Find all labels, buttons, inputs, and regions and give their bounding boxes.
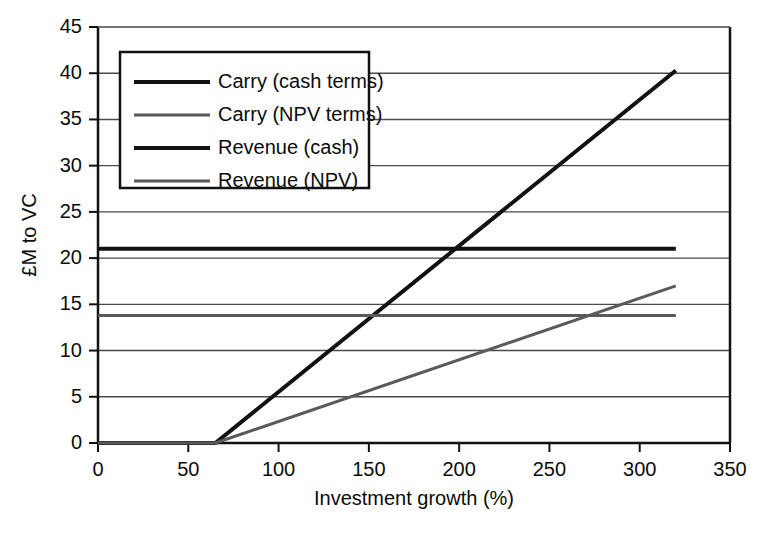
x-tick-label: 350: [690, 459, 767, 479]
legend-label-2: Revenue (cash): [218, 136, 359, 158]
legend-label-3: Revenue (NPV): [218, 169, 358, 191]
x-axis-title: Investment growth (%): [314, 487, 514, 509]
y-axis-ticks: [89, 27, 98, 443]
x-tick-label: 250: [509, 459, 589, 479]
x-tick-label: 150: [329, 459, 409, 479]
chart-legend: Carry (cash terms)Carry (NPV terms)Reven…: [120, 52, 384, 191]
y-tick-label: 40: [0, 62, 82, 82]
y-tick-label: 0: [0, 432, 82, 452]
y-tick-label: 20: [0, 247, 82, 267]
x-tick-label: 100: [239, 459, 319, 479]
y-tick-label: 5: [0, 386, 82, 406]
line-chart-canvas: Carry (cash terms)Carry (NPV terms)Reven…: [0, 0, 767, 537]
y-tick-label: 10: [0, 340, 82, 360]
y-tick-label: 30: [0, 155, 82, 175]
x-tick-label: 200: [419, 459, 499, 479]
chart-figure: Carry (cash terms)Carry (NPV terms)Reven…: [0, 0, 767, 537]
legend-label-0: Carry (cash terms): [218, 70, 384, 92]
y-tick-label: 25: [0, 201, 82, 221]
x-tick-label: 50: [148, 459, 228, 479]
x-tick-label: 0: [58, 459, 138, 479]
x-tick-label: 300: [600, 459, 680, 479]
y-tick-label: 45: [0, 16, 82, 36]
y-tick-label: 15: [0, 293, 82, 313]
y-tick-label: 35: [0, 108, 82, 128]
legend-label-1: Carry (NPV terms): [218, 103, 382, 125]
